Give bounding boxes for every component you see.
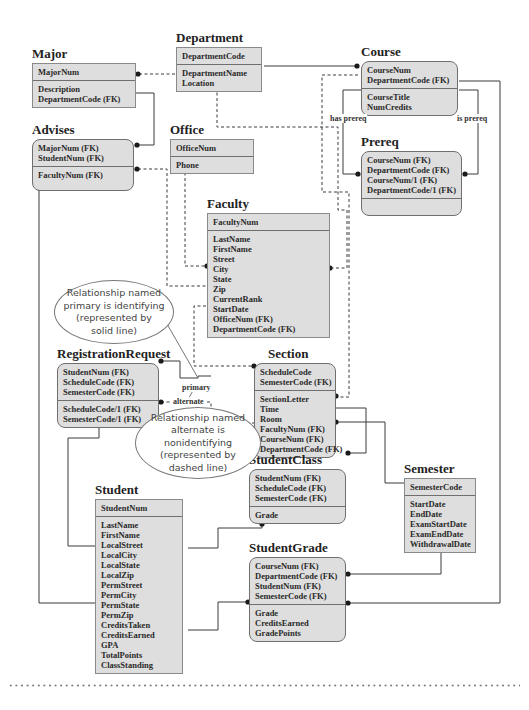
attribute: GPA	[101, 640, 177, 650]
primary-key-section: StudentNum (FK) ScheduleCode (FK) Semest…	[250, 470, 345, 507]
primary-key-section: CourseNum (FK) DepartmentCode (FK) Stude…	[250, 558, 345, 605]
key-attribute: CourseNum (FK)	[255, 561, 340, 571]
attribute-section: DepartmentName Location	[177, 65, 261, 91]
attribute: LocalZip	[101, 570, 177, 580]
note-line: alternate is nonidentifying	[136, 424, 260, 449]
key-attribute: StudentNum	[101, 503, 177, 513]
primary-key-section: MajorNum	[33, 64, 135, 81]
primary-key-section: CourseNum (FK) DepartmentCode (FK) Cours…	[362, 152, 461, 199]
attribute: ExamEndDate	[410, 529, 470, 539]
attribute-section: Phone	[171, 157, 253, 173]
attribute: OfficeNum (FK)	[213, 314, 324, 324]
attribute: Location	[182, 78, 256, 88]
attribute: City	[213, 264, 324, 274]
entity-title: Office	[170, 122, 254, 137]
attribute: NumCredits	[367, 102, 452, 112]
entity-box: FacultyNum LastName FirstName Street Cit…	[207, 213, 330, 338]
attribute-section: CourseTitle NumCredits	[362, 89, 457, 115]
entity-office[interactable]: Office OfficeNum Phone	[170, 122, 254, 174]
attribute: WithdrawalDate	[410, 539, 470, 549]
key-attribute: CourseNum	[367, 65, 452, 75]
primary-key-section: StudentNum	[96, 500, 182, 517]
attribute: FirstName	[101, 530, 177, 540]
entity-department[interactable]: Department DepartmentCode DepartmentName…	[176, 30, 262, 92]
entity-title: StudentClass	[249, 452, 346, 467]
attribute: FirstName	[213, 244, 324, 254]
entity-title: RegistrationRequest	[57, 346, 159, 361]
attribute: CourseNum (FK)	[260, 434, 330, 444]
entity-faculty[interactable]: Faculty FacultyNum LastName FirstName St…	[207, 196, 330, 338]
entity-student-grade[interactable]: StudentGrade CourseNum (FK) DepartmentCo…	[249, 540, 346, 642]
attribute: CourseTitle	[367, 92, 452, 102]
primary-key-section: FacultyNum	[208, 214, 329, 231]
key-attribute: CourseNum/1 (FK)	[367, 175, 456, 185]
line-has-prereq	[343, 90, 362, 174]
attribute: DepartmentCode (FK)	[38, 94, 130, 104]
attribute: TotalPoints	[101, 650, 177, 660]
entity-box: SemesterCode StartDate EndDate ExamStart…	[404, 478, 476, 553]
note-line: (represented by	[136, 449, 260, 462]
label-has-prereq: has prereq	[329, 114, 367, 123]
note-line: Relationship named	[136, 412, 260, 425]
attribute-section: Grade CreditsEarned GradePoints	[250, 605, 345, 641]
key-attribute: SemesterCode (FK)	[255, 493, 340, 503]
line-advises-faculty	[138, 169, 206, 286]
entity-box: CourseNum DepartmentCode (FK) CourseTitl…	[361, 61, 458, 116]
entity-course[interactable]: Course CourseNum DepartmentCode (FK) Cou…	[361, 44, 458, 116]
attribute: LastName	[213, 234, 324, 244]
attribute-section: LastName FirstName Street City State Zip…	[208, 231, 329, 337]
primary-key-section: ScheduleCode SemesterCode (FK)	[255, 364, 335, 391]
entity-major[interactable]: Major MajorNum Description DepartmentCod…	[32, 46, 136, 108]
label-primary: primary	[181, 383, 211, 392]
attribute-section: StartDate EndDate ExamStartDate ExamEndD…	[405, 496, 475, 552]
line-major-advises	[136, 93, 154, 145]
attribute-section: Grade	[250, 507, 345, 523]
entity-section[interactable]: Section ScheduleCode SemesterCode (FK) S…	[254, 346, 336, 458]
note-line: Relationship named	[55, 287, 173, 300]
note-line: solid line)	[55, 325, 173, 338]
entity-advises[interactable]: Advises MajorNum (FK) StudentNum (FK) Fa…	[32, 122, 134, 191]
key-attribute: SemesterCode	[410, 482, 470, 492]
key-attribute: MajorNum (FK)	[38, 143, 128, 153]
entity-title: Advises	[32, 122, 134, 137]
entity-student[interactable]: Student StudentNum LastName FirstName Lo…	[95, 482, 183, 674]
attribute: CreditsEarned	[255, 618, 340, 628]
attribute: LastName	[101, 520, 177, 530]
attribute: Room	[260, 414, 330, 424]
primary-key-section: OfficeNum	[171, 140, 253, 157]
attribute: DepartmentName	[182, 68, 256, 78]
attribute-section: SectionLetter Time Room FacultyNum (FK) …	[255, 391, 335, 457]
note-identifying-relationship: Relationship named primary is identifyin…	[54, 280, 174, 344]
attribute: CreditsTaken	[101, 620, 177, 630]
attribute-section	[362, 199, 461, 215]
attribute: LocalCity	[101, 550, 177, 560]
entity-box: CourseNum (FK) DepartmentCode (FK) Cours…	[361, 151, 462, 216]
attribute: ExamStartDate	[410, 519, 470, 529]
key-attribute: FacultyNum	[213, 217, 324, 227]
key-attribute: StudentNum (FK)	[38, 153, 128, 163]
key-attribute: DepartmentCode (FK)	[367, 165, 456, 175]
attribute: PermZip	[101, 610, 177, 620]
attribute: DepartmentCode (FK)	[213, 324, 324, 334]
key-attribute: ScheduleCode (FK)	[255, 483, 340, 493]
key-attribute: StudentNum (FK)	[255, 473, 340, 483]
entity-prereq[interactable]: Prereq CourseNum (FK) DepartmentCode (FK…	[361, 134, 462, 216]
attribute: LocalStreet	[101, 540, 177, 550]
attribute: Grade	[255, 608, 340, 618]
key-attribute: ScheduleCode (FK)	[63, 377, 153, 387]
attribute: Street	[213, 254, 324, 264]
entity-title: StudentGrade	[249, 540, 346, 555]
attribute: StartDate	[213, 304, 324, 314]
attribute: FacultyNum (FK)	[260, 424, 330, 434]
attribute: EndDate	[410, 509, 470, 519]
key-attribute: StudentNum (FK)	[63, 367, 153, 377]
entity-box: DepartmentCode DepartmentName Location	[176, 47, 262, 92]
entity-box: StudentNum (FK) ScheduleCode (FK) Semest…	[249, 469, 346, 524]
key-attribute: DepartmentCode (FK)	[255, 571, 340, 581]
attribute: SectionLetter	[260, 394, 330, 404]
attribute: Time	[260, 404, 330, 414]
entity-box: MajorNum (FK) StudentNum (FK) FacultyNum…	[32, 139, 134, 191]
entity-semester[interactable]: Semester SemesterCode StartDate EndDate …	[404, 461, 476, 553]
entity-student-class[interactable]: StudentClass StudentNum (FK) ScheduleCod…	[249, 452, 346, 524]
entity-box: MajorNum Description DepartmentCode (FK)	[32, 63, 136, 108]
